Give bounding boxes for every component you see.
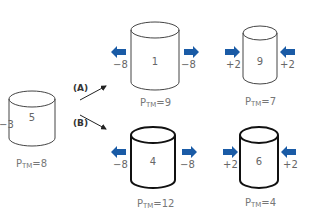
cell-a-hypertonic-left-flux: +2 [226, 60, 241, 70]
initial-ptm-label: PTM=8 [16, 159, 47, 170]
cell-b-hypertonic-ptm: PTM=4 [245, 198, 276, 209]
cell-b-hypotonic-right-flux: −8 [180, 160, 195, 170]
cell-a-hypertonic-right-flux: +2 [280, 60, 295, 70]
cell-b-hypertonic-right-flux: +2 [283, 160, 298, 170]
diagram-canvas [0, 0, 310, 218]
cell-a-hypertonic-cylinder [243, 26, 277, 84]
cell-b-hypotonic-ptm: PTM=12 [137, 199, 174, 210]
cell-a-hypertonic-inside-value: 9 [254, 57, 266, 67]
cell-a-hypotonic-right-flux: −8 [181, 60, 196, 70]
cell-a-hypertonic-ptm: PTM=7 [245, 97, 276, 108]
cell-a-hypotonic-ptm: PTM=9 [140, 98, 171, 109]
cell-b-hypotonic-left-flux: −8 [113, 160, 128, 170]
initial-inside-value: 5 [26, 113, 38, 123]
branch-label-a: (A) [73, 84, 88, 93]
cell-b-hypotonic-inside-value: 4 [147, 157, 159, 167]
cell-b-hypertonic-inside-value: 6 [253, 157, 265, 167]
cell-a-hypotonic-inside-value: 1 [149, 57, 161, 67]
branch-label-b: (B) [73, 119, 88, 128]
cell-b-hypertonic-left-flux: +2 [223, 160, 238, 170]
initial-outside-value: −3 [0, 120, 14, 130]
cell-a-hypotonic-left-flux: −8 [113, 60, 128, 70]
